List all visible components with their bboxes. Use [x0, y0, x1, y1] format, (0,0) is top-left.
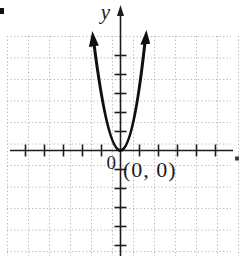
stray-scan-dot: [235, 157, 239, 161]
parabola-right-arrowhead-icon: [140, 30, 150, 45]
parabola-left-arrowhead-icon: [89, 31, 99, 47]
y-axis-label: y: [99, 0, 111, 24]
origin-label: 0: [107, 152, 117, 173]
y-axis-arrowhead-icon: [117, 5, 124, 16]
vertex-point-label: (0, 0): [123, 157, 177, 182]
parabola-graph-figure: y 0 (0, 0): [0, 0, 239, 256]
grid-lines: [7, 36, 239, 256]
coordinate-plane: y 0 (0, 0): [0, 0, 239, 256]
axes: [10, 5, 233, 256]
